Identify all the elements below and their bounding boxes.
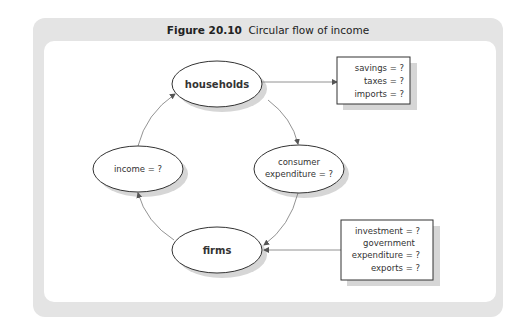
svg-text:firms: firms [203, 245, 232, 256]
injections-box: investment = ? government expenditure = … [341, 220, 433, 280]
svg-text:expenditure = ?: expenditure = ? [265, 169, 333, 179]
svg-text:consumer: consumer [278, 157, 321, 167]
arrow-households-to-consumer [268, 100, 298, 144]
svg-text:expenditure = ?: expenditure = ? [352, 250, 420, 260]
node-income: income = ? [93, 146, 183, 192]
svg-text:savings = ?: savings = ? [355, 63, 404, 73]
node-households: households [172, 61, 262, 107]
arrow-firms-to-income [138, 193, 174, 240]
circular-flow-diagram: households income = ? consumer expenditu… [0, 0, 516, 332]
node-firms: firms [172, 227, 262, 273]
arrow-consumer-to-firms [264, 193, 298, 245]
withdrawals-box: savings = ? taxes = ? imports = ? [337, 57, 410, 104]
svg-text:taxes = ?: taxes = ? [364, 76, 404, 86]
node-consumer-expenditure: consumer expenditure = ? [254, 145, 344, 193]
svg-text:exports = ?: exports = ? [371, 263, 420, 273]
svg-text:households: households [185, 79, 249, 90]
svg-text:income = ?: income = ? [114, 164, 162, 174]
arrow-income-to-households [138, 94, 175, 146]
svg-text:government: government [363, 238, 415, 248]
svg-text:investment = ?: investment = ? [355, 226, 420, 236]
svg-text:imports = ?: imports = ? [354, 89, 404, 99]
